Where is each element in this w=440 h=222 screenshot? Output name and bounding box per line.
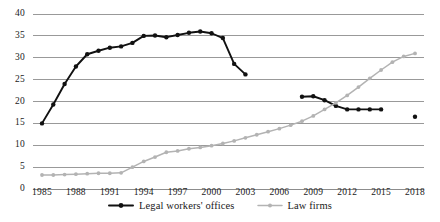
data-point [175,33,179,37]
data-point [74,172,78,176]
data-point [40,121,44,125]
y-tick-label: 40 [3,9,25,19]
data-point [62,82,66,86]
data-point [153,155,157,159]
data-point [390,60,394,64]
data-point [97,171,101,175]
data-point [244,136,248,140]
data-point [413,115,417,119]
data-point [402,55,406,59]
data-point [232,62,236,66]
chart-legend: Legal workers' officesLaw firms [0,200,440,211]
data-point [255,133,259,137]
series-lines [40,29,417,177]
data-point [232,139,236,143]
data-point [300,119,304,123]
legend-marker-icon [257,201,283,210]
data-point [85,172,89,176]
legend-item[interactable]: Legal workers' offices [108,200,234,211]
legend-item[interactable]: Law firms [257,200,332,211]
data-point [356,107,360,111]
data-point [368,107,372,111]
data-point [108,45,112,49]
x-tick-label: 2018 [395,188,435,198]
data-point [210,144,214,148]
data-point [379,68,383,72]
data-point [221,142,225,146]
data-point [85,52,89,56]
data-point [357,85,361,89]
data-point [300,94,304,98]
data-point [130,41,134,45]
data-point [277,127,281,131]
data-point [323,107,327,111]
data-point [176,149,180,153]
legend-label: Law firms [288,200,332,211]
data-point [142,34,146,38]
data-point [108,171,112,175]
data-point [40,173,44,177]
y-tick-label: 15 [3,118,25,128]
legend-marker-icon [108,201,134,210]
data-point [345,107,349,111]
data-point [164,150,168,154]
data-point [164,35,168,39]
data-point [289,123,293,127]
data-point [96,49,100,53]
data-point [311,94,315,98]
data-point [266,130,270,134]
data-point [379,107,383,111]
data-point [142,160,146,164]
data-point [221,36,225,40]
data-point [153,33,157,37]
data-point [119,44,123,48]
data-point [368,76,372,80]
data-point [198,146,202,150]
data-point [187,147,191,151]
data-point [334,101,338,105]
data-point [51,173,55,177]
data-point [74,64,78,68]
data-point [322,98,326,102]
y-tick-label: 10 [3,140,25,150]
data-point [413,51,417,55]
data-point [51,102,55,106]
data-point [198,29,202,33]
series-line-0-0 [42,32,245,124]
y-tick-label: 35 [3,31,25,41]
data-point [209,31,213,35]
y-tick-label: 20 [3,97,25,107]
data-point [63,173,67,177]
data-point [131,165,135,169]
data-point [187,31,191,35]
y-tick-label: 5 [3,162,25,172]
data-point [311,114,315,118]
y-tick-label: 25 [3,75,25,85]
gridlines [33,14,424,189]
legend-label: Legal workers' offices [139,200,234,211]
data-point [345,93,349,97]
series-line-1-0 [42,53,415,175]
data-point [243,72,247,76]
y-tick-label: 30 [3,53,25,63]
line-chart: 0510152025303540 19851988199119941997200… [0,0,440,222]
data-point [119,171,123,175]
